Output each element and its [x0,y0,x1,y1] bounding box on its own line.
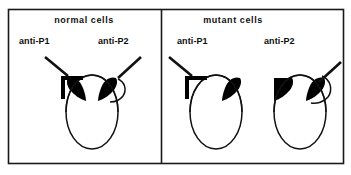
immunolabeling-figure: normal cells anti-P1 anti-P2 mutant cell… [0,0,351,175]
label-mutant-anti-p2: anti-P2 [264,36,295,46]
label-normal-anti-p1: anti-P1 [19,36,50,46]
panel-title-mutant: mutant cells [193,15,273,25]
label-mutant-anti-p1: anti-P1 [177,36,208,46]
figure-canvas [0,0,351,175]
panel-title-normal: normal cells [44,15,124,25]
label-normal-anti-p2: anti-P2 [98,36,129,46]
